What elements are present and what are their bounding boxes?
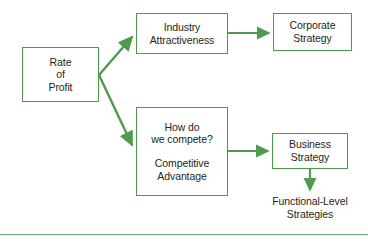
node-industry-attractiveness: Industry Attractiveness — [136, 13, 228, 54]
node-line: Strategy — [291, 151, 329, 164]
node-line: Advantage — [157, 170, 206, 183]
node-line: Strategy — [293, 32, 331, 45]
node-rate-of-profit: Rate of Profit — [22, 47, 99, 102]
node-line: Business — [289, 138, 331, 151]
node-how-do-we-compete: How do we compete? Competitive Advantage — [136, 107, 228, 196]
node-corporate-strategy: Corporate Strategy — [273, 13, 352, 51]
node-line: Rate — [50, 56, 72, 69]
node-line: Corporate — [290, 19, 336, 32]
edge-rate-to-compete — [99, 75, 132, 145]
node-business-strategy: Business Strategy — [272, 133, 348, 169]
baseline-rule — [0, 234, 368, 235]
node-line: Industry — [164, 21, 201, 34]
node-line: Competitive — [155, 157, 209, 170]
node-line: we compete? — [151, 133, 212, 146]
label-line: Functional-Level — [252, 195, 368, 208]
label-line: Strategies — [252, 208, 368, 221]
node-line: Attractiveness — [150, 34, 215, 47]
node-line: Profit — [49, 81, 73, 94]
edge-rate-to-industry — [99, 37, 132, 75]
node-line: of — [56, 68, 65, 81]
diagram-canvas: Rate of Profit Industry Attractiveness C… — [0, 0, 368, 242]
label-functional-level-strategies: Functional-Level Strategies — [252, 195, 368, 220]
node-line: How do — [164, 121, 199, 134]
